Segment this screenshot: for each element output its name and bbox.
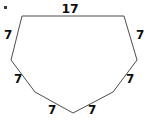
- heptagon-outline: [11, 16, 137, 113]
- side-label-upper-right: 7: [136, 29, 144, 41]
- side-label-top: 17: [62, 3, 79, 16]
- polygon-svg: [0, 0, 149, 121]
- side-label-upper-left: 7: [4, 29, 12, 41]
- side-label-bottom-left: 7: [48, 104, 56, 116]
- polygon-figure: 17 7 7 7 7 7 7: [0, 0, 149, 121]
- side-label-lower-right: 7: [126, 73, 134, 85]
- side-label-bottom-right: 7: [88, 104, 96, 116]
- side-label-lower-left: 7: [14, 73, 22, 85]
